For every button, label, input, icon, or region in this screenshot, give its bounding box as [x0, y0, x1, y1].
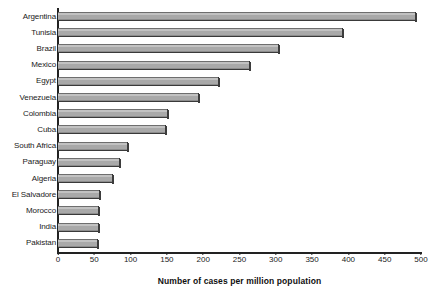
- x-tick: 400: [342, 252, 355, 264]
- x-tick: 300: [269, 252, 282, 264]
- bar: [58, 93, 199, 102]
- bar: [58, 223, 99, 232]
- bar-chart: ArgentinaTunisiaBrazilMexicoEgyptVenezue…: [0, 0, 435, 298]
- x-tick: 100: [124, 252, 137, 264]
- bar-row: Brazil: [58, 42, 421, 55]
- bar-row: South Africa: [58, 140, 421, 153]
- bar-row: Mexico: [58, 59, 421, 72]
- x-tick: 350: [305, 252, 318, 264]
- bar: [58, 158, 120, 167]
- bar-row: India: [58, 221, 421, 234]
- category-label: El Salvadore: [12, 191, 56, 199]
- bar-row: Algeria: [58, 172, 421, 185]
- bar-row: Paraguay: [58, 156, 421, 169]
- category-label: Brazil: [37, 45, 56, 53]
- bar: [58, 61, 250, 70]
- tick-label: 350: [305, 256, 318, 264]
- bar: [58, 77, 219, 86]
- category-label: Venezuela: [20, 94, 56, 102]
- bar-row: Pakistan: [58, 237, 421, 250]
- bar: [58, 28, 343, 37]
- category-label: Colombia: [23, 110, 56, 118]
- tick-label: 250: [233, 256, 246, 264]
- bar: [58, 44, 279, 53]
- bar-row: Colombia: [58, 107, 421, 120]
- bar: [58, 125, 166, 134]
- x-axis-ticks: 050100150200250300350400450500: [58, 252, 421, 276]
- category-label: Tunisia: [31, 29, 56, 37]
- x-tick: 250: [233, 252, 246, 264]
- bar-row: Cuba: [58, 123, 421, 136]
- tick-label: 300: [269, 256, 282, 264]
- category-label: Cuba: [37, 126, 56, 134]
- x-tick: 150: [160, 252, 173, 264]
- bar-row: Morocco: [58, 204, 421, 217]
- x-tick: 200: [197, 252, 210, 264]
- bar: [58, 12, 416, 21]
- category-label: Egypt: [36, 77, 56, 85]
- tick-label: 0: [56, 256, 60, 264]
- x-axis-title: Number of cases per million population: [58, 276, 421, 286]
- bar: [58, 206, 99, 215]
- tick-label: 400: [342, 256, 355, 264]
- bar-row: Egypt: [58, 75, 421, 88]
- tick-label: 50: [90, 256, 99, 264]
- plot-area: ArgentinaTunisiaBrazilMexicoEgyptVenezue…: [58, 8, 421, 253]
- tick-label: 500: [414, 256, 427, 264]
- bar-row: El Salvadore: [58, 188, 421, 201]
- bar-rows: ArgentinaTunisiaBrazilMexicoEgyptVenezue…: [58, 8, 421, 253]
- tick-label: 450: [378, 256, 391, 264]
- category-label: Pakistan: [26, 239, 56, 247]
- bar-row: Venezuela: [58, 91, 421, 104]
- category-label: Mexico: [31, 61, 56, 69]
- category-label: Argentina: [23, 13, 56, 21]
- bar-row: Argentina: [58, 10, 421, 23]
- bar: [58, 190, 100, 199]
- x-tick: 50: [90, 252, 99, 264]
- category-label: South Africa: [14, 142, 56, 150]
- bar: [58, 142, 128, 151]
- tick-label: 200: [197, 256, 210, 264]
- bar: [58, 174, 113, 183]
- x-tick: 500: [414, 252, 427, 264]
- bar-row: Tunisia: [58, 26, 421, 39]
- tick-label: 100: [124, 256, 137, 264]
- bar: [58, 109, 168, 118]
- tick-label: 150: [160, 256, 173, 264]
- category-label: Paraguay: [23, 158, 56, 166]
- bar: [58, 239, 98, 248]
- category-label: Algeria: [32, 175, 56, 183]
- category-label: Morocco: [26, 207, 56, 215]
- x-tick: 450: [378, 252, 391, 264]
- category-label: India: [39, 223, 56, 231]
- x-tick: 0: [56, 252, 60, 264]
